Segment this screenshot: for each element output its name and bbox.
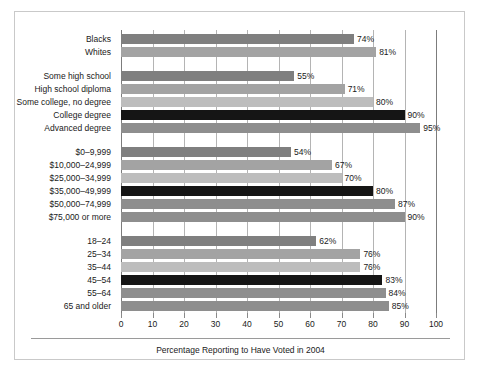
category-label: $35,000–49,999 [15, 186, 111, 196]
bar-row: 81% [121, 47, 436, 57]
x-tick-20 [184, 313, 185, 318]
bar-value-label: 87% [398, 200, 415, 209]
bar-age-1 [121, 249, 360, 259]
x-tick-label-80: 80 [368, 320, 377, 329]
bar-value-label: 76% [363, 263, 380, 272]
chart-caption: Percentage Reporting to Have Voted in 20… [31, 339, 450, 360]
bar-row: 62% [121, 236, 436, 246]
bar-value-label: 90% [408, 111, 425, 120]
bar-row: 87% [121, 199, 436, 209]
bar-value-label: 84% [389, 289, 406, 298]
x-tick-80 [373, 313, 374, 318]
x-tick-label-10: 10 [148, 320, 157, 329]
bar-value-label: 83% [385, 276, 402, 285]
category-label: Whites [15, 47, 111, 57]
bar-value-label: 81% [379, 48, 396, 57]
bar-row: 84% [121, 288, 436, 298]
x-tick-40 [247, 313, 248, 318]
category-label: College degree [15, 110, 111, 120]
x-tick-label-90: 90 [400, 320, 409, 329]
bar-row: 71% [121, 84, 436, 94]
x-tick-0 [121, 313, 122, 318]
bar-race-0 [121, 34, 354, 44]
x-tick-50 [279, 313, 280, 318]
bar-education-3 [121, 110, 405, 120]
category-label: 18–24 [15, 236, 111, 246]
bar-row: 76% [121, 249, 436, 259]
bar-value-label: 90% [408, 213, 425, 222]
x-tick-30 [216, 313, 217, 318]
x-tick-label-20: 20 [179, 320, 188, 329]
bar-row: 55% [121, 71, 436, 81]
bar-row: 80% [121, 186, 436, 196]
bar-row: 70% [121, 173, 436, 183]
x-tick-60 [310, 313, 311, 318]
bar-age-5 [121, 301, 389, 311]
bar-value-label: 70% [345, 174, 362, 183]
bar-income-5 [121, 212, 405, 222]
category-label: Blacks [15, 34, 111, 44]
x-tick-label-30: 30 [211, 320, 220, 329]
category-label: $25,000–34,999 [15, 173, 111, 183]
bar-value-label: 54% [294, 148, 311, 157]
category-label: 35–44 [15, 262, 111, 272]
category-label: $75,000 or more [15, 212, 111, 222]
bar-value-label: 67% [335, 161, 352, 170]
bar-income-2 [121, 173, 342, 183]
x-tick-label-70: 70 [337, 320, 346, 329]
category-label: Some high school [15, 71, 111, 81]
bar-value-label: 71% [348, 85, 365, 94]
bar-value-label: 85% [392, 302, 409, 311]
category-label: Some college, no degree [15, 97, 111, 107]
x-tick-100 [436, 313, 437, 318]
category-label: $0–9,999 [15, 147, 111, 157]
bar-value-label: 80% [376, 187, 393, 196]
bar-row: 74% [121, 34, 436, 44]
bar-row: 90% [121, 110, 436, 120]
x-axis: 0102030405060708090100 [121, 313, 436, 335]
x-tick-label-60: 60 [305, 320, 314, 329]
bar-value-label: 62% [319, 237, 336, 246]
bar-value-label: 55% [297, 72, 314, 81]
x-tick-label-100: 100 [429, 320, 443, 329]
bar-education-2 [121, 97, 373, 107]
bar-row: 85% [121, 301, 436, 311]
bar-age-3 [121, 275, 382, 285]
chart-frame: BlacksWhitesSome high schoolHigh school … [14, 11, 465, 360]
bar-value-label: 76% [363, 250, 380, 259]
x-tick-label-0: 0 [119, 320, 124, 329]
category-label: 25–34 [15, 249, 111, 259]
bar-income-3 [121, 186, 373, 196]
bar-rows: 74%81%55%71%80%90%95%54%67%70%80%87%90%6… [121, 30, 436, 313]
plot-area: 74%81%55%71%80%90%95%54%67%70%80%87%90%6… [121, 30, 436, 313]
bar-age-2 [121, 262, 360, 272]
category-label-column: BlacksWhitesSome high schoolHigh school … [15, 30, 115, 313]
category-label: 65 and older [15, 301, 111, 311]
gridline-100 [436, 30, 437, 313]
bar-row: 90% [121, 212, 436, 222]
bar-education-4 [121, 123, 420, 133]
bar-row: 67% [121, 160, 436, 170]
bar-age-0 [121, 236, 316, 246]
category-label: High school diploma [15, 84, 111, 94]
category-label: 55–64 [15, 288, 111, 298]
bar-row: 76% [121, 262, 436, 272]
bar-income-0 [121, 147, 291, 157]
bar-row: 95% [121, 123, 436, 133]
bar-value-label: 80% [376, 98, 393, 107]
bar-age-4 [121, 288, 386, 298]
bar-value-label: 74% [357, 35, 374, 44]
bar-row: 54% [121, 147, 436, 157]
category-label: Advanced degree [15, 123, 111, 133]
bar-education-1 [121, 84, 345, 94]
bar-race-1 [121, 47, 376, 57]
x-tick-10 [153, 313, 154, 318]
x-tick-label-50: 50 [274, 320, 283, 329]
bar-income-4 [121, 199, 395, 209]
category-label: 45–54 [15, 275, 111, 285]
bar-education-0 [121, 71, 294, 81]
category-label: $10,000–24,999 [15, 160, 111, 170]
x-tick-70 [342, 313, 343, 318]
x-tick-label-40: 40 [242, 320, 251, 329]
bar-row: 83% [121, 275, 436, 285]
